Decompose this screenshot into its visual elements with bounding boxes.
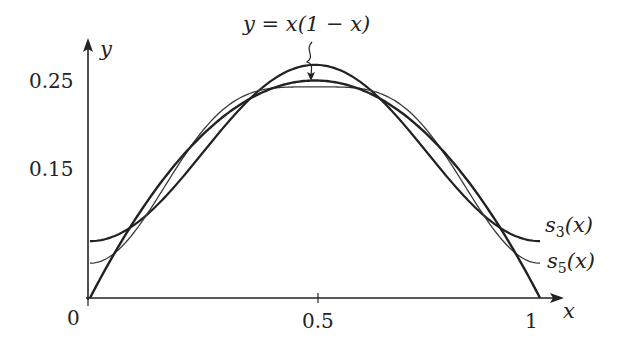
legend-label-s5: s5(x) bbox=[547, 249, 595, 276]
chart-canvas: y x 0.25 0.15 0 0.5 1 y = x(1 − x) s3(x)… bbox=[0, 0, 625, 341]
s3-main: s bbox=[545, 213, 556, 237]
s5-main: s bbox=[547, 249, 558, 273]
legend-label-s3: s3(x) bbox=[545, 213, 593, 240]
x-tick-label-1: 1 bbox=[525, 309, 538, 333]
series-s5-line bbox=[90, 87, 540, 263]
s3-arg: (x) bbox=[565, 213, 593, 237]
y-tick-label-0.25: 0.25 bbox=[29, 69, 74, 93]
x-axis-label: x bbox=[563, 299, 575, 323]
annotation-label: y = x(1 − x) bbox=[242, 12, 370, 36]
series-parabola-line bbox=[90, 81, 540, 299]
y-axis-label: y bbox=[99, 37, 113, 61]
axes bbox=[83, 38, 564, 306]
x-tick-label-0.5: 0.5 bbox=[302, 309, 334, 333]
annotation-arrow bbox=[307, 42, 315, 81]
y-tick-label-0.15: 0.15 bbox=[29, 157, 74, 181]
s5-subscript: 5 bbox=[558, 260, 567, 276]
curves bbox=[90, 65, 540, 298]
x-tick-label-0: 0 bbox=[67, 306, 80, 330]
s3-subscript: 3 bbox=[556, 224, 565, 240]
series-s3-line bbox=[90, 65, 540, 241]
s5-arg: (x) bbox=[567, 249, 595, 273]
